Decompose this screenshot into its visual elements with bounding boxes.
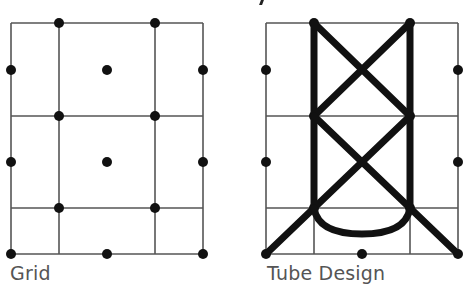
- grid-dot: [150, 111, 160, 121]
- grid-dot: [150, 18, 160, 28]
- grid-dot: [453, 65, 463, 75]
- grid-dot: [198, 157, 208, 167]
- diagram-canvas: [0, 0, 475, 294]
- grid-figure: [6, 18, 208, 259]
- grid-dot: [6, 65, 16, 75]
- tube-design-figure: [261, 18, 463, 259]
- grid-dot: [54, 111, 64, 121]
- grid-dot: [102, 65, 112, 75]
- grid-dot: [6, 249, 16, 259]
- grid-dot: [261, 157, 271, 167]
- grid-lines: [266, 23, 458, 254]
- tube-strokes: [266, 23, 458, 254]
- grid-dot: [150, 203, 160, 213]
- grid-dot: [453, 157, 463, 167]
- grid-dot: [198, 65, 208, 75]
- grid-dot: [357, 249, 367, 259]
- grid-dot: [102, 157, 112, 167]
- grid-lines: [11, 23, 203, 254]
- grid-dot: [261, 65, 271, 75]
- grid-dot: [102, 249, 112, 259]
- grid-dots: [6, 18, 208, 259]
- grid-dot: [54, 203, 64, 213]
- grid-dots: [261, 18, 463, 259]
- grid-dot: [54, 18, 64, 28]
- tube-design-label: Tube Design: [267, 262, 385, 284]
- grid-dot: [6, 157, 16, 167]
- grid-label: Grid: [10, 262, 51, 284]
- grid-dot: [198, 249, 208, 259]
